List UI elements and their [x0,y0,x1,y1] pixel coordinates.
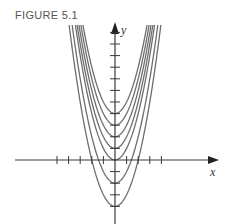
y-axis-label: y [120,23,127,37]
x-axis-arrow-icon [208,156,219,164]
parabola-family-diagram: x y [0,0,233,224]
x-axis-label: x [209,165,216,179]
axes: x y [15,22,219,224]
